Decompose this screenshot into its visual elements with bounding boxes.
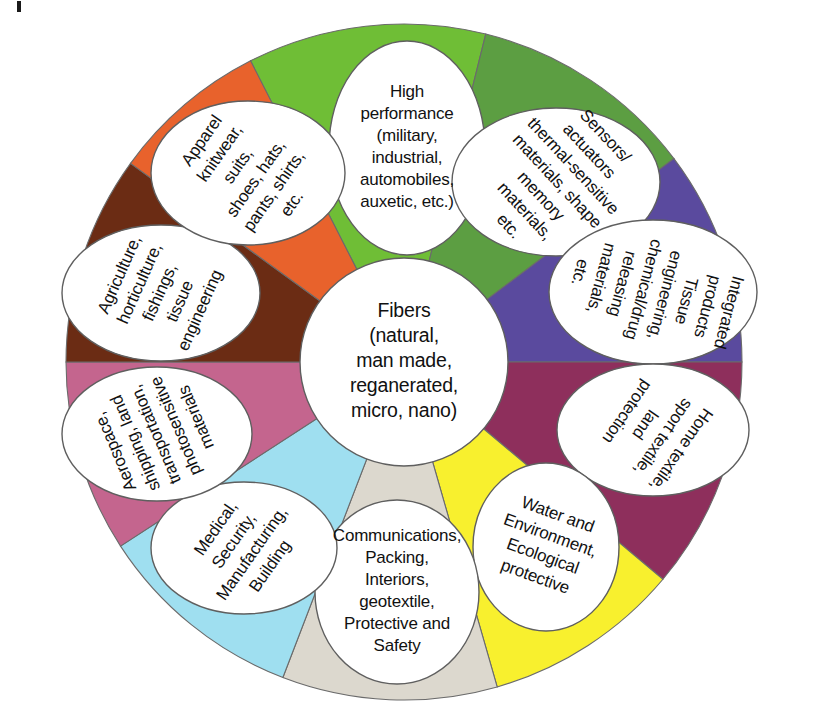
center-label-line: Fibers — [378, 299, 431, 321]
label-line: performance — [360, 104, 453, 123]
label-line: automobiles, — [360, 170, 454, 189]
label-line: geotextile, — [359, 592, 434, 611]
label-line: High — [390, 82, 424, 101]
label-line: Safety — [374, 636, 422, 655]
label-line: Protective and — [344, 614, 450, 633]
center-label-line: (natural, — [369, 324, 439, 346]
label-line: Packing, — [365, 548, 429, 567]
wheel-svg: Highperformance(military,industrial,auto… — [0, 0, 813, 720]
center-label-line: micro, nano) — [351, 399, 457, 421]
label-line: industrial, — [372, 148, 443, 167]
center-label-line: man made, — [356, 349, 452, 371]
label-line: (military, — [377, 126, 438, 145]
fiber-application-wheel-diagram: Highperformance(military,industrial,auto… — [0, 0, 813, 720]
label-line: auxetic, etc.) — [360, 192, 454, 211]
center-label-line: reganerated, — [350, 374, 458, 396]
label-line: Interiors, — [365, 570, 429, 589]
label-line: Communications, — [333, 526, 461, 545]
